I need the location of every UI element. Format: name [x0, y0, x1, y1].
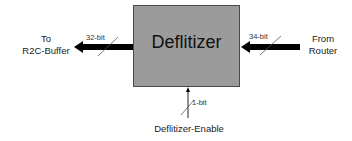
control-width-label: 1-bit — [192, 98, 207, 107]
deflitizer-block: Deflitizer — [133, 5, 240, 87]
input-source-label: From Router — [300, 33, 346, 57]
block-label: Deflitizer — [151, 32, 221, 53]
output-width-label: 32-bit — [86, 33, 105, 42]
output-destination-label: To R2C-Buffer — [18, 33, 74, 57]
input-width-label: 34-bit — [249, 32, 268, 41]
control-signal-label: Deflitizer-Enable — [139, 123, 239, 135]
